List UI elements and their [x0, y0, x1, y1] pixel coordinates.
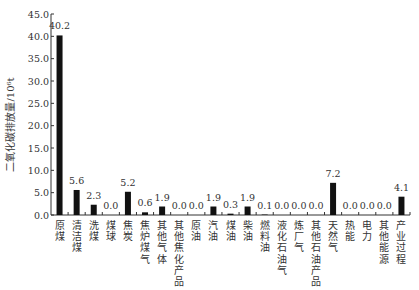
value-label: 0.0: [189, 200, 204, 211]
bar: [74, 190, 80, 215]
value-labels: 40.25.62.30.05.20.61.90.00.01.90.31.90.1…: [49, 20, 409, 211]
y-axis: 0.05.010.015.020.025.030.035.040.045.0: [28, 9, 54, 221]
value-label: 0.6: [137, 197, 152, 208]
bars: [57, 35, 405, 215]
category-label: 液化石油气: [277, 219, 287, 276]
category-label: 柴油: [243, 219, 253, 242]
value-label: 2.3: [86, 190, 101, 201]
category-label: 其他石油产品: [311, 220, 321, 287]
y-tick-label: 15.0: [28, 143, 49, 154]
category-label: 天然气: [328, 220, 338, 253]
bar: [398, 197, 404, 215]
category-label: 煤球: [106, 219, 116, 242]
y-axis-label: 二氧化碳排放量/10⁶t: [4, 77, 16, 171]
y-tick-label: 20.0: [28, 120, 49, 131]
value-label: 40.2: [49, 20, 70, 31]
value-label: 0.3: [223, 199, 238, 210]
y-tick-label: 25.0: [28, 98, 49, 109]
value-label: 0.0: [172, 200, 187, 211]
y-tick-label: 0.0: [34, 210, 49, 221]
value-label: 1.9: [155, 192, 170, 203]
bar: [57, 35, 63, 215]
value-label: 0.0: [377, 200, 392, 211]
value-label: 0.0: [291, 200, 306, 211]
category-labels: 原煤清洁煤洗煤煤球焦炭焦炉煤气其他气体其他焦化产品原油汽油煤油柴油燃料油液化石油…: [55, 219, 407, 287]
y-tick-label: 10.0: [28, 165, 49, 176]
bar: [125, 192, 131, 215]
bar: [228, 214, 234, 215]
y-axis-title: 二氧化碳排放量/10⁶t: [4, 77, 16, 171]
category-label: 电力: [362, 219, 372, 242]
category-label: 汽油: [208, 219, 218, 242]
category-label: 洗煤: [89, 220, 99, 242]
category-label: 清洁煤: [72, 219, 82, 253]
value-label: 0.0: [274, 200, 289, 211]
category-label: 炼厂气: [294, 219, 304, 253]
value-label: 7.2: [326, 168, 341, 179]
y-tick-label: 5.0: [34, 187, 49, 198]
category-label: 其他气体: [157, 220, 167, 265]
bar: [210, 207, 216, 215]
value-label: 5.2: [120, 177, 135, 188]
category-label: 热能: [345, 219, 355, 242]
value-label: 5.6: [69, 175, 84, 186]
value-label: 1.9: [240, 192, 255, 203]
value-label: 0.0: [103, 200, 118, 211]
value-label: 4.1: [394, 182, 409, 193]
category-label: 原煤: [55, 220, 65, 242]
y-tick-label: 35.0: [28, 53, 49, 64]
value-label: 0.0: [343, 200, 358, 211]
value-label: 0.0: [308, 200, 323, 211]
y-tick-label: 30.0: [28, 76, 49, 87]
bar-chart: 二氧化碳排放量/10⁶t 0.05.010.015.020.025.030.03…: [0, 0, 419, 290]
category-label: 焦炭: [123, 219, 133, 242]
category-label: 原油: [191, 220, 201, 242]
value-label: 0.1: [257, 200, 272, 211]
bar: [91, 205, 97, 215]
value-label: 0.0: [360, 200, 375, 211]
y-tick-label: 40.0: [28, 31, 49, 42]
category-label: 焦炉煤气: [140, 219, 150, 265]
category-label: 产业过程: [396, 219, 406, 265]
value-label: 1.9: [206, 192, 221, 203]
category-label: 煤油: [226, 219, 236, 242]
category-label: 燃料油: [260, 219, 270, 253]
bar: [159, 207, 165, 215]
bar: [245, 207, 251, 215]
category-label: 其他焦化产品: [174, 220, 184, 287]
bar: [142, 212, 148, 215]
y-tick-label: 45.0: [28, 9, 49, 20]
bar: [330, 183, 336, 215]
category-label: 其他能源: [379, 220, 389, 265]
